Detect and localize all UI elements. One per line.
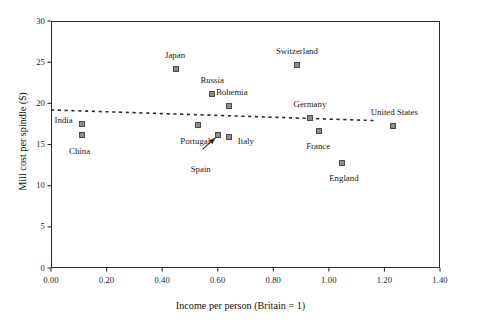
data-point-label: China (69, 146, 90, 156)
data-point-label: Germany (294, 99, 327, 109)
data-point-marker[interactable] (79, 132, 85, 138)
x-tick-label: 1.00 (305, 275, 353, 285)
data-point-marker[interactable] (215, 132, 221, 138)
data-point-marker[interactable] (195, 122, 201, 128)
data-point-label: United States (371, 107, 418, 117)
data-point-label: Russia (200, 75, 223, 85)
scatter-chart-figure: 051015202530 0.000.200.400.600.801.001.2… (0, 0, 481, 325)
data-point-marker[interactable] (339, 160, 345, 166)
y-axis-title: Mill cost per spindle ($) (17, 47, 28, 237)
x-tick-label: 0.60 (194, 275, 242, 285)
data-point-label: Switzerland (276, 46, 318, 56)
x-tick-label: 0.20 (83, 275, 131, 285)
data-point-marker[interactable] (390, 123, 396, 129)
data-point-marker[interactable] (307, 115, 313, 121)
data-point-label: Spain (191, 164, 211, 174)
x-tick-label: 1.20 (360, 275, 408, 285)
data-point-label: Portugal (180, 136, 210, 146)
x-axis-tick-marks (51, 268, 440, 272)
data-point-label: England (329, 173, 358, 183)
data-point-label: India (55, 115, 73, 125)
data-point-label: Japan (165, 50, 185, 60)
x-tick-label: 1.40 (416, 275, 464, 285)
data-point-marker[interactable] (79, 121, 85, 127)
data-point-marker[interactable] (173, 66, 179, 72)
data-point-marker[interactable] (316, 128, 322, 134)
data-point-marker[interactable] (226, 103, 232, 109)
y-tick-label: 30 (19, 16, 45, 26)
data-point-label: Bohemia (216, 87, 248, 97)
x-tick-label: 0.80 (249, 275, 297, 285)
data-point-marker[interactable] (226, 134, 232, 140)
data-point-marker[interactable] (294, 62, 300, 68)
data-point-marker[interactable] (209, 91, 215, 97)
data-point-label: Italy (238, 136, 254, 146)
x-axis-title: Income per person (Britain = 1) (0, 300, 481, 311)
trend-line (51, 110, 376, 121)
x-tick-label: 0.00 (27, 275, 75, 285)
y-tick-label: 0 (19, 263, 45, 273)
data-point-label: France (306, 141, 330, 151)
y-axis-tick-marks (48, 21, 52, 268)
x-tick-label: 0.40 (138, 275, 186, 285)
